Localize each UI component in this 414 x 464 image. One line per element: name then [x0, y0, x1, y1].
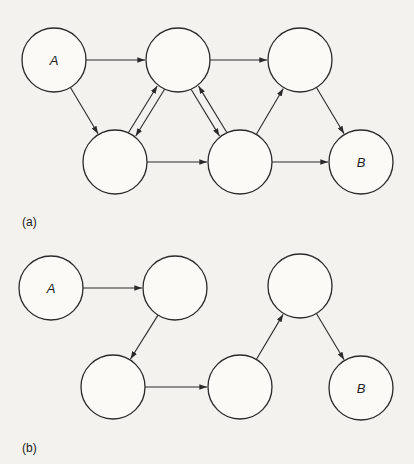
node-circle [81, 355, 145, 419]
node-a-A: A [22, 28, 86, 92]
nodes-layer: ABAB [19, 28, 393, 420]
node-b-A: A [19, 256, 83, 320]
graph-diagram: ABAB (a)(b) [0, 0, 414, 464]
edges-layer [70, 60, 344, 387]
node-circle [208, 355, 272, 419]
node-label: A [49, 53, 59, 68]
node-b-n5 [208, 355, 272, 419]
node-circle [208, 130, 272, 194]
edge-b-n5-to-n3 [256, 314, 283, 359]
node-a-n5 [208, 130, 272, 194]
node-circle [143, 256, 207, 320]
node-a-n2 [146, 28, 210, 92]
node-circle [268, 28, 332, 92]
node-b-n4 [81, 355, 145, 419]
node-a-B: B [329, 130, 393, 194]
edge-a-n5-to-n3 [256, 88, 283, 134]
node-circle [83, 130, 147, 194]
node-a-n4 [83, 130, 147, 194]
edge-b-n3-to-B [316, 313, 344, 359]
node-b-n3 [268, 254, 332, 318]
node-circle [146, 28, 210, 92]
edge-a-n3-to-B [316, 87, 344, 133]
node-label: B [357, 381, 366, 396]
edge-b-n2-to-n4 [131, 315, 159, 359]
node-circle [268, 254, 332, 318]
edge-a-A-to-n4 [70, 87, 98, 133]
node-label: A [46, 281, 56, 296]
captions-layer: (a)(b) [22, 215, 37, 455]
edge-a-n2-to-n4 [136, 89, 165, 136]
node-a-n3 [268, 28, 332, 92]
edge-a-n4-to-n2 [128, 86, 157, 133]
panel-caption-a: (a) [22, 215, 37, 229]
node-b-B: B [329, 356, 393, 420]
panel-caption-b: (b) [22, 441, 37, 455]
node-label: B [357, 155, 366, 170]
node-b-n2 [143, 256, 207, 320]
